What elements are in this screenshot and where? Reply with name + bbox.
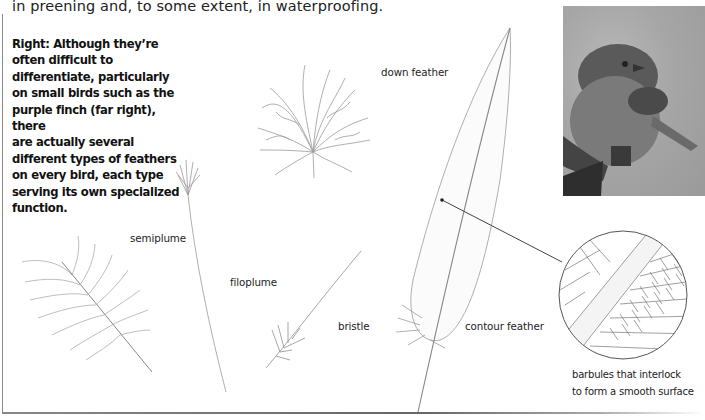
caption-line: are actually several bbox=[12, 134, 182, 150]
bristle-illustration bbox=[266, 251, 361, 368]
finch-silhouette bbox=[563, 6, 705, 196]
label-barbules-line: barbules that interlock bbox=[572, 366, 694, 383]
label-barbules: barbules that interlock to form a smooth… bbox=[572, 366, 694, 400]
label-bristle: bristle bbox=[338, 320, 370, 332]
caption-line: on small birds such as the bbox=[12, 85, 182, 101]
contour-feather-illustration bbox=[396, 28, 511, 412]
caption-line: purple finch (far right), there bbox=[12, 102, 182, 135]
label-filoplume: filoplume bbox=[230, 276, 277, 288]
figure-caption: Right: Although they’re often difficult … bbox=[12, 36, 182, 216]
label-barbules-line: to form a smooth surface bbox=[572, 383, 694, 400]
semiplume-illustration bbox=[22, 236, 152, 372]
intro-text: in preening and, to some extent, in wate… bbox=[12, 0, 383, 14]
caption-line: differentiate, particularly bbox=[12, 69, 182, 85]
label-down-feather: down feather bbox=[381, 66, 448, 78]
page-frame-left bbox=[2, 14, 3, 413]
down-feather-illustration bbox=[258, 65, 370, 178]
page-frame-bottom bbox=[2, 412, 705, 414]
purple-finch-photo bbox=[563, 6, 705, 196]
caption-line: on every bird, each type bbox=[12, 167, 182, 183]
caption-line: different types of feathers bbox=[12, 151, 182, 167]
filoplume-illustration bbox=[176, 160, 226, 392]
magnified-barbules-illustration bbox=[440, 198, 700, 359]
caption-line: often difficult to bbox=[12, 52, 182, 68]
caption-line: Right: Although they’re bbox=[12, 36, 182, 52]
caption-line: serving its own specialized bbox=[12, 184, 182, 200]
label-contour-feather: contour feather bbox=[465, 320, 544, 332]
caption-line: function. bbox=[12, 200, 182, 216]
label-semiplume: semiplume bbox=[130, 232, 186, 244]
